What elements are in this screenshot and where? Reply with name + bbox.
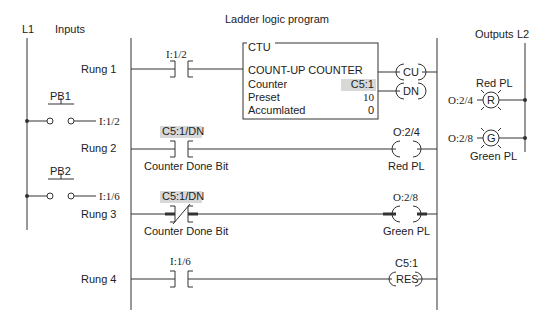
ladder-diagram: Ladder logic program L1 Inputs Outputs L… xyxy=(0,0,555,329)
rung-1-label: Rung 1 xyxy=(81,63,116,75)
rung-3: Rung 3 C5:1/DN Counter Done Bit O:2/8 Gr… xyxy=(81,190,437,237)
dn-coil: DN xyxy=(403,85,419,97)
rung-3-coil-desc: Green PL xyxy=(383,225,430,237)
preset-value: 10 xyxy=(363,91,375,103)
rung-4-contact-address: I:1/6 xyxy=(170,255,191,267)
rung-2-contact-desc: Counter Done Bit xyxy=(144,160,228,172)
rung-3-label: Rung 3 xyxy=(81,208,116,220)
rung-2-contact-address: C5:1/DN xyxy=(162,125,204,137)
green-pl-address: O:2/8 xyxy=(448,132,474,144)
pb2-label: PB2 xyxy=(50,165,71,177)
pb2-address: I:1/6 xyxy=(99,190,120,202)
counter-value: C5:1 xyxy=(351,78,374,90)
res-coil: RES xyxy=(396,273,419,285)
red-pl-label: Red PL xyxy=(476,77,513,89)
ctu-tag: CTU xyxy=(248,41,271,53)
accumulated-label: Accumlated xyxy=(248,104,305,116)
rung-4-label: Rung 4 xyxy=(81,273,116,285)
rung-3-contact-desc: Counter Done Bit xyxy=(144,225,228,237)
preset-label: Preset xyxy=(248,91,280,103)
rung-2-label: Rung 2 xyxy=(81,142,116,154)
rung-4-coil-address: C5:1 xyxy=(395,257,418,269)
counter-label: Counter xyxy=(248,78,287,90)
rung-2-coil-desc: Red PL xyxy=(388,160,425,172)
ctu-title: COUNT-UP COUNTER xyxy=(248,64,363,76)
green-pl-label: Green PL xyxy=(470,150,517,162)
cu-coil: CU xyxy=(403,66,419,78)
accumulated-value: 0 xyxy=(368,104,374,116)
red-pl-letter: R xyxy=(487,94,495,106)
pb2-pushbutton: PB2 I:1/6 xyxy=(25,165,120,202)
l1-label: L1 xyxy=(22,23,34,35)
pb1-label: PB1 xyxy=(50,90,71,102)
green-pl-letter: G xyxy=(487,132,496,144)
rung-2: Rung 2 C5:1/DN Counter Done Bit O:2/4 Re… xyxy=(81,125,437,172)
inputs-label: Inputs xyxy=(55,23,85,35)
diagram-title: Ladder logic program xyxy=(225,13,329,25)
rung-1: Rung 1 I:1/2 CTU COUNT-UP COUNTER Counte… xyxy=(81,39,437,119)
pb1-address: I:1/2 xyxy=(99,115,120,127)
rung-3-contact-address: C5:1/DN xyxy=(162,190,204,202)
pb1-pushbutton: PB1 I:1/2 xyxy=(25,90,120,127)
outputs-label: Outputs xyxy=(475,28,514,40)
l2-label: L2 xyxy=(517,28,529,40)
rung-4: Rung 4 I:1/6 C5:1 RES xyxy=(81,255,437,287)
rung-3-coil-address: O:2/8 xyxy=(393,191,419,203)
red-pilot-light: Red PL O:2/4 R xyxy=(448,77,527,110)
red-pl-address: O:2/4 xyxy=(448,94,474,106)
rung-1-contact-address: I:1/2 xyxy=(166,48,187,60)
green-pilot-light: O:2/8 G Green PL xyxy=(448,128,527,162)
rung-2-coil-address: O:2/4 xyxy=(393,126,420,138)
